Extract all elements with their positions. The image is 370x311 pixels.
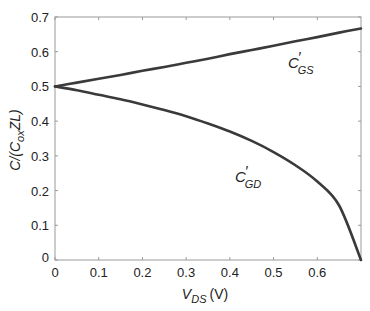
curves — [55, 28, 361, 260]
y-axis-label: C/(CoxZL) — [7, 109, 26, 170]
x-tick-label: 0.3 — [177, 265, 195, 280]
y-tick-label: 0.4 — [31, 114, 49, 129]
x-tick-label: 0.1 — [90, 265, 108, 280]
x-tick-label: 0 — [51, 265, 58, 280]
y-tick-label: 0.2 — [31, 184, 49, 199]
y-tick-label: 0.7 — [31, 10, 49, 25]
y-tick-label: 0 — [42, 250, 49, 265]
y-axis: 00.10.20.30.40.50.60.7 — [31, 10, 361, 265]
curve-label-cgs: C′GS — [288, 48, 314, 76]
curve-cgs — [55, 28, 361, 86]
chart-canvas: 00.10.20.30.40.50.6 00.10.20.30.40.50.60… — [0, 0, 370, 311]
y-tick-label: 0.3 — [31, 149, 49, 164]
curve-label-cgd: C′GD — [235, 162, 261, 190]
y-tick-label: 0.5 — [31, 79, 49, 94]
x-tick-label: 0.5 — [265, 265, 283, 280]
plot-frame — [55, 17, 361, 260]
x-tick-label: 0.4 — [221, 265, 239, 280]
x-axis-label: VDS(V) — [182, 286, 228, 305]
y-tick-label: 0.1 — [31, 218, 49, 233]
y-tick-label: 0.6 — [31, 45, 49, 60]
x-tick-label: 0.6 — [308, 265, 326, 280]
x-tick-label: 0.2 — [133, 265, 151, 280]
curve-cgd — [55, 86, 361, 260]
x-axis: 00.10.20.30.40.50.6 — [51, 17, 326, 280]
